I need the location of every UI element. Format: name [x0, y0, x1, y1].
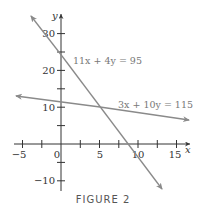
figure-caption: FIGURE 2	[76, 194, 131, 205]
x-tick-label: −5	[12, 149, 27, 160]
x-axis: −5 0 5 10 15 x	[12, 140, 191, 160]
equation-label-1: 11x + 4y = 95	[73, 55, 142, 66]
figure-2-chart: −5 0 5 10 15 x 30 20 10 −10 y 11x + 4y =…	[0, 0, 202, 216]
equation-label-2: 3x + 10y = 115	[118, 99, 193, 110]
y-axis-label: y	[51, 10, 58, 21]
x-axis-label: x	[185, 144, 191, 155]
x-tick-label: 0	[54, 149, 60, 160]
y-tick-label: 10	[42, 102, 55, 113]
x-tick-label: 5	[97, 149, 103, 160]
y-tick-label: −10	[34, 175, 55, 186]
x-tick-label: 15	[169, 149, 182, 160]
y-tick-label: 20	[42, 65, 55, 76]
